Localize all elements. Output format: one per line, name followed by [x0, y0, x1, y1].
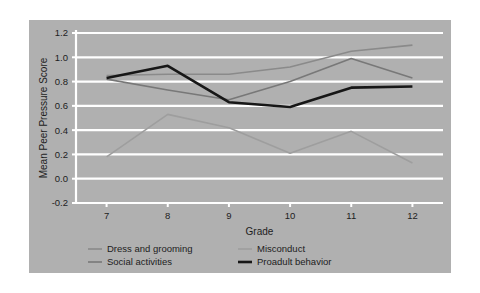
series-line [107, 59, 413, 100]
y-gridlines: 1.21.00.80.60.40.20.0-0.2 [52, 27, 443, 208]
legend-label: Social activities [107, 256, 172, 267]
x-tick-label: 12 [407, 210, 418, 221]
legend-label: Dress and grooming [107, 243, 193, 254]
y-tick-label: -0.2 [52, 197, 68, 208]
x-tick-label: 8 [165, 210, 170, 221]
y-axis-title: Mean Peer Pressure Score [38, 57, 49, 178]
y-tick-label: 0.2 [55, 149, 68, 160]
series-line [107, 66, 413, 107]
legend: Dress and groomingSocial activitiesMisco… [88, 243, 331, 267]
line-chart: 1.21.00.80.60.40.20.0-0.2789101112GradeM… [0, 0, 480, 293]
legend-label: Proadult behavior [257, 256, 331, 267]
y-tick-label: 1.2 [55, 27, 68, 38]
x-axis-title: Grade [246, 226, 274, 237]
series-line [107, 45, 413, 75]
legend-label: Misconduct [257, 243, 305, 254]
x-tick-label: 7 [104, 210, 109, 221]
series-group [107, 45, 413, 163]
y-tick-label: 0.4 [55, 125, 68, 136]
x-tick-label: 9 [226, 210, 231, 221]
y-tick-label: 0.6 [55, 100, 68, 111]
y-tick-label: 1.0 [55, 52, 68, 63]
x-ticks: 789101112 [104, 203, 418, 221]
x-tick-label: 10 [285, 210, 296, 221]
y-tick-label: 0.0 [55, 173, 68, 184]
series-line [107, 114, 413, 163]
figure-canvas: 1.21.00.80.60.40.20.0-0.2789101112GradeM… [0, 0, 480, 293]
x-tick-label: 11 [346, 210, 356, 221]
y-tick-label: 0.8 [55, 76, 68, 87]
